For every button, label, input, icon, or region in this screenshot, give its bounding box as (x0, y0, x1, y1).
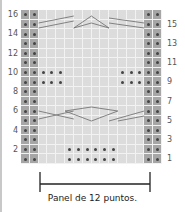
row-number: 15 (167, 20, 181, 30)
page-edge (0, 0, 2, 212)
row-number: 13 (167, 39, 181, 49)
row-number: 4 (4, 126, 18, 136)
row-number: 10 (4, 68, 18, 78)
panel-bracket (38, 170, 152, 194)
row-number: 16 (4, 10, 18, 20)
row-number: 14 (4, 29, 18, 39)
cable-crossings (21, 10, 162, 164)
row-number: 2 (4, 145, 18, 155)
row-number: 8 (4, 87, 18, 97)
row-number: 5 (167, 116, 181, 126)
row-number: 9 (167, 77, 181, 87)
cable-icon (39, 16, 145, 28)
row-number: 3 (167, 135, 181, 145)
row-number: 6 (4, 106, 18, 116)
row-number: 1 (167, 154, 181, 164)
cable-icon (39, 107, 145, 121)
row-number: 12 (4, 49, 18, 59)
row-number: 7 (167, 97, 181, 107)
panel-caption: Panel de 12 puntos. (0, 193, 185, 203)
row-number: 11 (167, 58, 181, 68)
